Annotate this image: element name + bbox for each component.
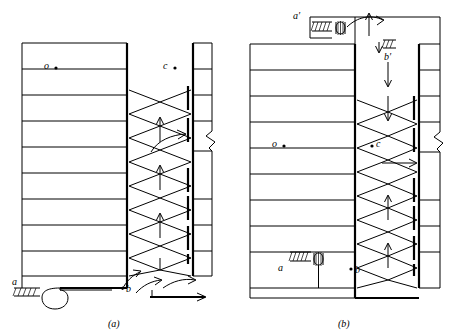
- panel-b-valve-bottom: [289, 252, 323, 288]
- label-b-o: o: [272, 138, 277, 149]
- caption-panel-a: (a): [108, 318, 120, 329]
- label-a-a: a: [12, 276, 17, 287]
- figure-root: o c a b a′ b′ o c a b (a) (b): [0, 0, 450, 336]
- panel-b-point-c: [370, 144, 373, 147]
- label-b-b: b: [355, 264, 360, 275]
- panel-a-point-b: [121, 286, 124, 289]
- label-b-a-prime: a′: [293, 10, 300, 21]
- panel-a-point-c: [173, 66, 176, 69]
- panel-b-valve-top: [311, 21, 345, 35]
- panel-b-bottom: [250, 288, 419, 298]
- panel-a-point-o: [54, 66, 57, 69]
- label-b-a: a: [278, 262, 283, 273]
- label-b-c: c: [376, 138, 380, 149]
- panel-b-packing: [357, 100, 417, 288]
- panel-b-point-b: [349, 267, 352, 270]
- caption-panel-b: (b): [338, 318, 350, 329]
- panel-b-point-o: [282, 144, 285, 147]
- label-b-b-prime: b′: [384, 51, 391, 62]
- label-a-o: o: [44, 60, 49, 71]
- panel-a-column-shell: [22, 43, 215, 276]
- label-a-c: c: [163, 60, 167, 71]
- panel-a-drawing: [0, 0, 450, 336]
- label-a-b: b: [126, 283, 131, 294]
